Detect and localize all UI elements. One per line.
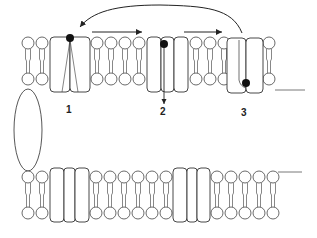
lipid bbox=[133, 37, 145, 85]
signal-marker-icon bbox=[160, 40, 168, 48]
vesicle-ellipse bbox=[14, 89, 42, 171]
label-protein-2: 2 bbox=[160, 106, 166, 117]
lipid bbox=[22, 171, 34, 219]
lipid bbox=[132, 171, 144, 219]
lipid bbox=[267, 171, 279, 219]
lipid bbox=[104, 171, 116, 219]
lipid bbox=[160, 171, 172, 219]
lipid bbox=[90, 171, 102, 219]
lipid bbox=[225, 171, 237, 219]
lipid bbox=[190, 37, 202, 85]
lipid bbox=[105, 37, 117, 85]
label-protein-1: 1 bbox=[66, 104, 72, 115]
protein-1 bbox=[50, 34, 90, 92]
label-protein-3: 3 bbox=[241, 107, 247, 118]
lipid bbox=[204, 37, 216, 85]
lipid bbox=[118, 171, 130, 219]
curved-return-arrow bbox=[80, 5, 242, 33]
protein-3 bbox=[227, 38, 263, 93]
protein-bottom-a bbox=[50, 168, 89, 222]
lipid bbox=[91, 37, 103, 85]
signal-marker-icon bbox=[242, 79, 250, 87]
lipid bbox=[146, 171, 158, 219]
protein-2 bbox=[147, 37, 188, 104]
lipid bbox=[239, 171, 251, 219]
lipid bbox=[22, 37, 34, 85]
lipid bbox=[36, 171, 48, 219]
lipid bbox=[263, 37, 275, 85]
lipid bbox=[253, 171, 265, 219]
lipid bbox=[119, 37, 131, 85]
diagram-canvas bbox=[0, 0, 317, 238]
protein-bottom-b bbox=[173, 168, 210, 222]
lipid bbox=[211, 171, 223, 219]
membrane-diagram: 1 2 3 bbox=[0, 0, 317, 238]
signal-marker-icon bbox=[66, 34, 74, 42]
translocation-arrows bbox=[80, 5, 242, 33]
lipid bbox=[36, 37, 48, 85]
